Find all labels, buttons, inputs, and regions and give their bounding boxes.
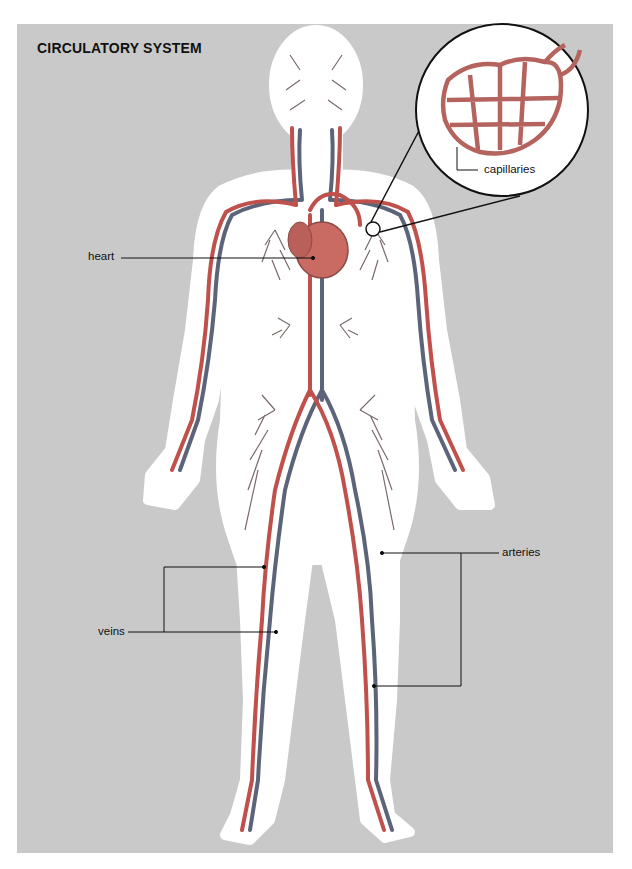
arteries-label: arteries bbox=[502, 546, 540, 558]
circulatory-illustration bbox=[0, 0, 632, 869]
veins-label: veins bbox=[98, 625, 125, 637]
heart-label: heart bbox=[88, 250, 114, 262]
capillaries-label: capillaries bbox=[484, 163, 535, 175]
diagram-title: CIRCULATORY SYSTEM bbox=[37, 40, 202, 56]
capillary-source-circle bbox=[366, 222, 380, 236]
